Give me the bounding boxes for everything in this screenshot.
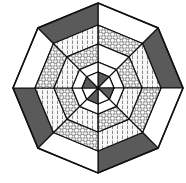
octagon-diagram [0, 0, 186, 183]
octagon-mosaic [0, 0, 186, 183]
